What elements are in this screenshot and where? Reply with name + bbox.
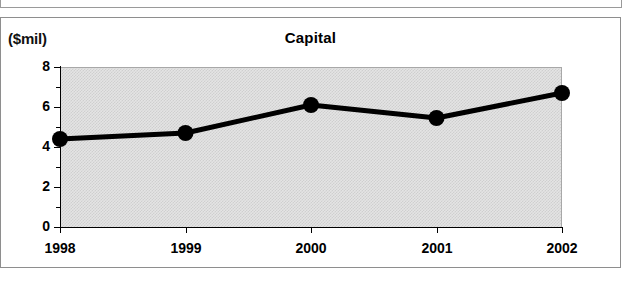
y-tick-label: 0: [26, 218, 50, 234]
y-tick-minor: [56, 87, 61, 88]
y-tick-minor: [56, 127, 61, 128]
y-tick-major: [54, 147, 61, 148]
y-tick-label: 4: [26, 138, 50, 154]
top-frame-fragment: [0, 0, 622, 8]
x-tick: [437, 227, 438, 233]
y-tick-major: [54, 67, 61, 68]
plot-right-rule: [561, 67, 562, 227]
chart-title: Capital: [0, 29, 621, 46]
x-tick: [562, 227, 563, 233]
y-tick-minor: [56, 167, 61, 168]
y-tick-label: 2: [26, 178, 50, 194]
x-tick-label: 2002: [532, 240, 592, 256]
x-tick-label: 1998: [30, 240, 90, 256]
plot-area: [60, 67, 562, 227]
y-tick-minor: [56, 207, 61, 208]
y-tick-major: [54, 107, 61, 108]
x-tick: [186, 227, 187, 233]
plot-top-rule: [60, 67, 562, 68]
y-tick-major: [54, 187, 61, 188]
x-tick-label: 2001: [407, 240, 467, 256]
x-tick-label: 1999: [156, 240, 216, 256]
y-tick-label: 6: [26, 98, 50, 114]
x-tick-label: 2000: [281, 240, 341, 256]
x-tick: [311, 227, 312, 233]
x-tick: [60, 227, 61, 233]
y-tick-label: 8: [26, 58, 50, 74]
